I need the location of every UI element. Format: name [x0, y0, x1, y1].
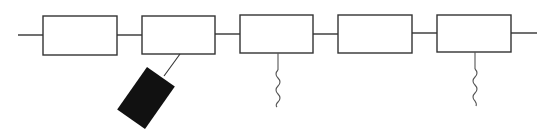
tethered-block-attachment [117, 54, 180, 129]
wavy-chain-coil [473, 69, 477, 106]
unit-box-4 [338, 15, 412, 53]
unit-box-1 [43, 16, 117, 55]
chain-diagram [0, 0, 551, 132]
unit-box-5 [437, 15, 511, 52]
unit-box-3 [240, 15, 313, 53]
dark-block [117, 67, 175, 129]
unit-box-2 [142, 16, 215, 54]
wavy-chain-coil [276, 70, 280, 107]
wavy-chain-attachment-5 [473, 52, 477, 106]
tether-line [164, 54, 180, 76]
units [43, 15, 511, 55]
wavy-chain-attachment-3 [276, 53, 280, 107]
